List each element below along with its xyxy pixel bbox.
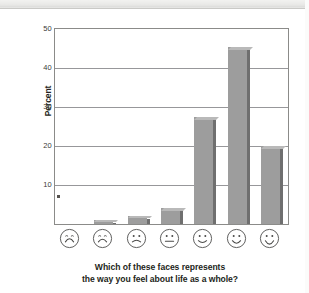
- bar-series: [55, 29, 288, 224]
- face-icon-7: [259, 228, 280, 249]
- bar-face-3-slightly-unhappy: [128, 216, 147, 224]
- face-icon-2: [92, 228, 113, 249]
- bar-slot: [255, 29, 288, 224]
- face-icon-5: [192, 228, 213, 249]
- bar-chart-figure: Percent 50 40 30 20 10 Which of these fa…: [0, 0, 309, 293]
- face-icon-4: [159, 228, 180, 249]
- bar-face-7-very-happy: [261, 146, 280, 224]
- caption-line-2: the way you feel about life as a whole?: [40, 274, 280, 286]
- bar-slot: [188, 29, 221, 224]
- y-tick-10: 10: [30, 181, 52, 189]
- bar-slot: [88, 29, 121, 224]
- y-tick-20: 20: [30, 142, 52, 150]
- caption-line-1: Which of these faces represents: [40, 262, 280, 274]
- bar-slot: [122, 29, 155, 224]
- y-tick-30: 30: [30, 103, 52, 111]
- bar-face-2-unhappy: [94, 220, 113, 224]
- y-tick-50: 50: [30, 25, 52, 33]
- bar-face-6-happy: [228, 47, 247, 224]
- bar-slot: [155, 29, 188, 224]
- bar-face-4-neutral: [161, 208, 180, 224]
- bar-slot: [55, 29, 88, 224]
- face-icon-6: [226, 228, 247, 249]
- bar-face-5-slightly-happy: [194, 117, 213, 224]
- y-axis-tick-labels: 50 40 30 20 10: [26, 0, 52, 293]
- face-icon-1: [59, 228, 80, 249]
- x-axis-face-icons: [54, 228, 289, 254]
- chart-caption: Which of these faces represents the way …: [40, 262, 280, 285]
- face-icon-3: [126, 228, 147, 249]
- bar-slot: [221, 29, 254, 224]
- plot-area: [54, 28, 289, 225]
- y-tick-40: 40: [30, 64, 52, 72]
